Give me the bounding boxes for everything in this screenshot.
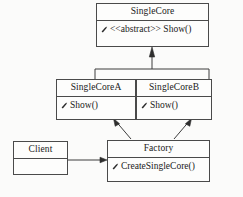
class-name-factory: Factory xyxy=(108,141,209,158)
association-connector-client-factory xyxy=(68,157,107,163)
class-methods-factory: CreateSingleCore() xyxy=(108,158,209,176)
method-marker-icon xyxy=(61,102,68,109)
method-marker-icon xyxy=(112,163,119,170)
method-label-singlecoreb-show: Show() xyxy=(150,101,178,111)
method-label-singlecorea-show: Show() xyxy=(70,101,98,111)
class-name-singlecoreb: SingleCoreB xyxy=(137,80,211,97)
uml-class-diagram: SingleCore <<abstract>> Show() SingleCor… xyxy=(0,0,243,197)
generalization-connector-singlecore xyxy=(95,47,209,79)
class-methods-singlecore: <<abstract>> Show() xyxy=(97,21,208,39)
class-box-factory[interactable]: Factory CreateSingleCore() xyxy=(107,140,210,182)
dependency-connector-factory-singlecoreb xyxy=(174,119,192,140)
class-box-singlecore[interactable]: SingleCore <<abstract>> Show() xyxy=(96,3,209,47)
dependency-connector-factory-singlecorea xyxy=(114,119,132,140)
method-label-singlecore-show: <<abstract>> Show() xyxy=(110,25,191,35)
class-name-client: Client xyxy=(14,142,67,159)
class-box-singlecoreb[interactable]: SingleCoreB Show() xyxy=(136,79,212,120)
class-methods-client xyxy=(14,159,67,171)
method-marker-icon xyxy=(101,26,108,33)
class-name-singlecore: SingleCore xyxy=(97,4,208,21)
method-marker-icon xyxy=(141,102,148,109)
class-methods-singlecorea: Show() xyxy=(57,97,135,115)
class-box-singlecorea[interactable]: SingleCoreA Show() xyxy=(56,79,136,120)
class-name-singlecorea: SingleCoreA xyxy=(57,80,135,97)
class-methods-singlecoreb: Show() xyxy=(137,97,211,115)
class-box-client[interactable]: Client xyxy=(13,141,68,175)
method-label-factory-create: CreateSingleCore() xyxy=(121,162,195,172)
